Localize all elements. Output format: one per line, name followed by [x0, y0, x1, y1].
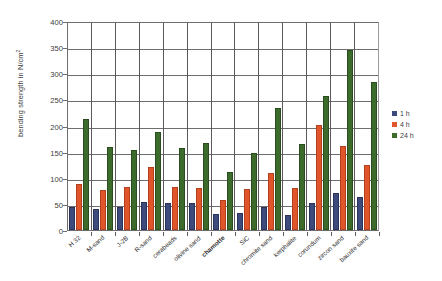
bar — [251, 153, 257, 230]
bar — [275, 108, 281, 230]
x-axis-tick-label: R-sand — [133, 234, 153, 253]
bar — [117, 207, 123, 230]
bar — [227, 172, 233, 230]
bar — [155, 132, 161, 230]
x-axis-tick-mark — [331, 232, 332, 236]
bar — [309, 203, 315, 230]
x-axis-tick-mark — [259, 232, 260, 236]
bar — [316, 125, 322, 230]
bar-group — [331, 23, 355, 230]
bar — [299, 144, 305, 230]
x-axis-tick-mark — [211, 232, 212, 236]
x-axis-tick-label: H 32 — [67, 234, 82, 248]
bar-group — [259, 23, 283, 230]
legend-item: 4 h — [392, 119, 414, 130]
plot-area — [67, 22, 379, 231]
y-axis-tick-label: 0 — [3, 227, 63, 236]
bar — [203, 143, 209, 230]
y-axis-tick-label: 300 — [3, 70, 63, 79]
x-axis-tick-mark — [139, 232, 140, 236]
bar-chart: bending strength in N/cm2 05010015020025… — [0, 0, 442, 281]
legend-item: 1 h — [392, 108, 414, 119]
y-axis-tick-label: 100 — [3, 174, 63, 183]
legend-swatch — [392, 111, 397, 116]
x-axis-tick-label: kerphalite — [272, 234, 297, 258]
bar — [340, 146, 346, 230]
bar — [323, 96, 329, 230]
x-axis-tick-label: SiC — [238, 234, 250, 246]
legend-label: 1 h — [400, 110, 410, 117]
x-axis-tick-mark — [91, 232, 92, 236]
x-axis-tick-mark — [187, 232, 188, 236]
y-axis-tick-label: 50 — [3, 200, 63, 209]
bar-group — [188, 23, 212, 230]
x-axis-tick-mark — [283, 232, 284, 236]
bar — [179, 148, 185, 230]
bar-group — [307, 23, 331, 230]
bar — [285, 215, 291, 230]
y-axis-tick-label: 200 — [3, 122, 63, 131]
x-axis-tick-mark — [163, 232, 164, 236]
bar-group — [116, 23, 140, 230]
bar-group — [92, 23, 116, 230]
bar — [100, 190, 106, 230]
bar-group — [355, 23, 378, 230]
x-axis-labels: H 32M-sandJ-2BR-sandcerabeadsolivine san… — [67, 232, 379, 281]
chart-legend: 1 h4 h24 h — [392, 108, 414, 141]
bar — [364, 165, 370, 230]
legend-label: 4 h — [400, 121, 410, 128]
bar — [69, 207, 75, 231]
bar — [292, 188, 298, 230]
bar — [148, 167, 154, 230]
legend-item: 24 h — [392, 130, 414, 141]
legend-swatch — [392, 122, 397, 127]
legend-label: 24 h — [400, 132, 414, 139]
bar — [347, 50, 353, 230]
bar — [333, 193, 339, 230]
bar — [141, 202, 147, 230]
bar-group — [68, 23, 92, 230]
x-axis-tick-mark — [115, 232, 116, 236]
bar — [261, 207, 267, 230]
bar — [213, 214, 219, 230]
bar — [237, 213, 243, 230]
y-axis-tick-label: 250 — [3, 96, 63, 105]
bar — [220, 200, 226, 230]
bar — [371, 82, 377, 230]
bar — [357, 197, 363, 230]
bar — [165, 203, 171, 230]
x-axis-tick-label: chamotte — [200, 234, 226, 258]
bar — [83, 119, 89, 230]
bar-group — [283, 23, 307, 230]
y-axis-tick-label: 350 — [3, 44, 63, 53]
bar-group — [235, 23, 259, 230]
bar — [268, 173, 274, 230]
legend-swatch — [392, 133, 397, 138]
bar — [189, 203, 195, 230]
x-axis-tick-mark — [355, 232, 356, 236]
bar — [93, 209, 99, 230]
bar — [76, 184, 82, 230]
bar — [244, 189, 250, 230]
bar-group — [212, 23, 236, 230]
x-axis-tick-label: M-sand — [85, 234, 106, 253]
bar-group — [164, 23, 188, 230]
x-axis-tick-mark — [379, 232, 380, 236]
x-axis-tick-label: J-2B — [115, 234, 129, 248]
y-axis-tick-label: 150 — [3, 148, 63, 157]
x-axis-tick-mark — [235, 232, 236, 236]
bar-group — [140, 23, 164, 230]
y-axis-tick-label: 400 — [3, 18, 63, 27]
x-axis-tick-mark — [307, 232, 308, 236]
bar — [172, 187, 178, 230]
bar — [107, 147, 113, 230]
bar-groups — [68, 23, 378, 230]
bar — [124, 187, 130, 230]
bar — [131, 150, 137, 230]
y-axis-title: bending strength in N/cm2 — [15, 18, 25, 168]
bar — [196, 188, 202, 230]
